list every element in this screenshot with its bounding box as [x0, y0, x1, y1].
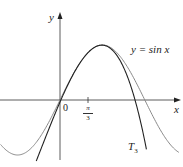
- taylor-label-sub: 3: [134, 147, 138, 155]
- x-axis-label: x: [174, 104, 179, 115]
- y-axis-arrow-icon: [58, 12, 63, 19]
- sin-curve-label: y = sin x: [131, 44, 169, 55]
- tick-label-numerator: π: [83, 105, 93, 114]
- tick-label-pi-over-3: π 3: [83, 105, 93, 122]
- x-axis-arrow-icon: [174, 98, 181, 103]
- tick-label-denominator: 3: [83, 114, 93, 122]
- y-axis-label: y: [49, 12, 54, 23]
- taylor-curve-label: T3: [128, 141, 138, 155]
- origin-label: 0: [63, 103, 68, 113]
- graph-canvas: [0, 0, 183, 167]
